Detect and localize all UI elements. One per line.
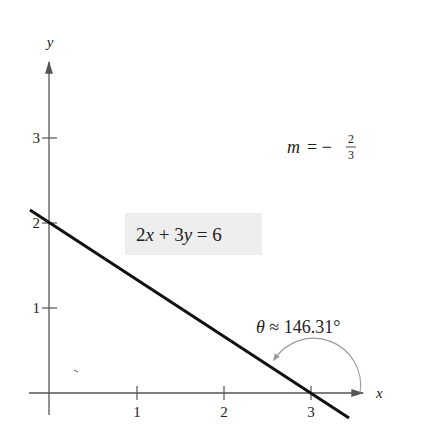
y-axis-label: y [45, 34, 54, 50]
angle-arc [274, 338, 361, 393]
y-tick-label-1: 1 [33, 300, 41, 316]
x-tick-label-3: 3 [307, 404, 315, 420]
equation-label: 2x + 3y = 6 [136, 224, 222, 245]
x-tick-label-2: 2 [220, 404, 228, 420]
x-tick-label-1: 1 [133, 404, 141, 420]
x-axis-label: x [375, 385, 383, 401]
slope-numerator: 2 [348, 132, 354, 146]
line-chart: 1 2 3 1 2 3 x y 2x + 3y = 6 m = − 2 3 θ … [0, 0, 432, 436]
slope-label: m = − 2 3 [287, 132, 356, 162]
svg-text:m: m [287, 137, 300, 157]
svg-text:= −: = − [307, 137, 332, 157]
stray-mark [74, 370, 78, 372]
slope-denominator: 3 [348, 148, 354, 162]
y-tick-label-3: 3 [33, 130, 41, 146]
angle-label: θ ≈ 146.31° [256, 317, 340, 337]
